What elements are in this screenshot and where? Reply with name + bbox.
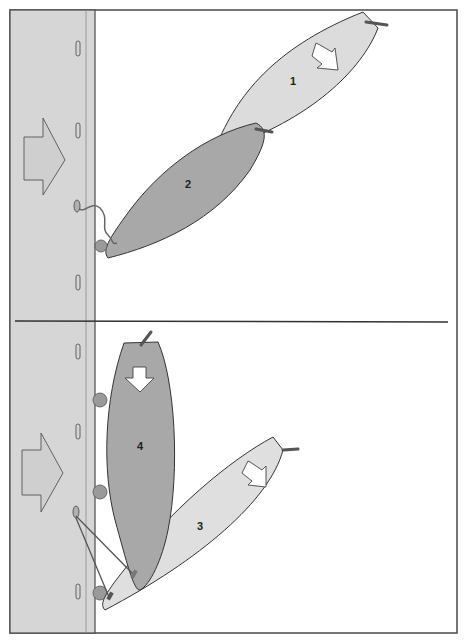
line-cleat-icon — [74, 200, 80, 212]
boat-4-label: 4 — [137, 440, 144, 452]
fender-icon — [93, 485, 107, 499]
sailing-maneuver-diagram: 1 2 3 4 — [0, 0, 464, 640]
boat-2-label: 2 — [185, 178, 191, 190]
cleat-icon — [76, 123, 80, 138]
cleat-icon — [76, 424, 80, 439]
boat-3-tiller — [283, 449, 298, 450]
boat-1-label: 1 — [290, 75, 296, 87]
cleat-icon — [76, 275, 80, 290]
cleat-icon — [76, 584, 80, 599]
boat-3-label: 3 — [197, 520, 203, 532]
fender-icon — [95, 240, 107, 252]
panel-divider — [15, 321, 448, 322]
cleat-icon — [76, 344, 80, 359]
fender-icon — [93, 393, 107, 407]
cleat-icon — [76, 41, 80, 56]
